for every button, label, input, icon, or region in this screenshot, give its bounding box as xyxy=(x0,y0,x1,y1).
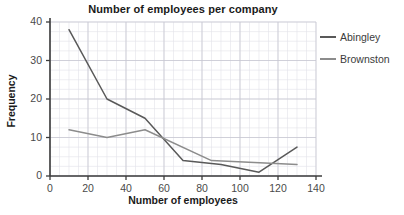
y-tick-30: 30 xyxy=(16,54,42,66)
y-tick-40: 40 xyxy=(16,15,42,27)
legend-label-brownston: Brownston xyxy=(340,53,390,65)
legend-item-abingley[interactable]: Abingley xyxy=(320,26,390,48)
legend-item-brownston[interactable]: Brownston xyxy=(320,48,390,70)
x-tick-0: 0 xyxy=(37,182,63,194)
legend-label-abingley: Abingley xyxy=(340,31,380,43)
x-tick-60: 60 xyxy=(151,182,177,194)
legend-line-swatch-abingley xyxy=(320,36,336,38)
y-tick-0: 0 xyxy=(16,169,42,181)
chart-container: Number of employees per company Frequenc… xyxy=(0,0,404,215)
chart-legend: Abingley Brownston xyxy=(320,26,390,70)
y-tick-10: 10 xyxy=(16,131,42,143)
axis-lines xyxy=(50,18,322,176)
axis-ticks xyxy=(46,22,316,180)
x-tick-40: 40 xyxy=(113,182,139,194)
x-tick-100: 100 xyxy=(227,182,253,194)
x-tick-20: 20 xyxy=(75,182,101,194)
legend-line-swatch-brownston xyxy=(320,58,336,60)
x-tick-140: 140 xyxy=(303,182,329,194)
x-tick-80: 80 xyxy=(189,182,215,194)
y-tick-20: 20 xyxy=(16,92,42,104)
x-tick-120: 120 xyxy=(265,182,291,194)
